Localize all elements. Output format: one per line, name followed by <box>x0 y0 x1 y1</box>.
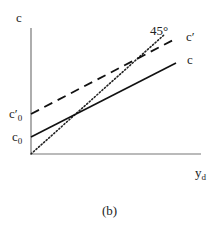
c-prime-zero-intercept-label: c′0 <box>9 107 22 120</box>
c-zero-intercept-label: c0 <box>12 130 22 143</box>
forty-five-degree-line <box>31 34 165 154</box>
figure-caption: (b) <box>102 204 117 217</box>
c-line <box>31 63 176 137</box>
c-prime-line <box>31 38 177 114</box>
c-prime-line-label: c′ <box>186 30 195 43</box>
x-axis-label-main: y <box>195 165 202 180</box>
c-zero-main: c <box>12 129 18 144</box>
y-axis-label: c <box>16 11 22 24</box>
c-line-label: c <box>187 53 193 66</box>
c-prime-zero-sub: 0 <box>18 113 23 123</box>
forty-five-degree-label: 45° <box>150 24 168 37</box>
x-axis-label-sub: d <box>202 172 207 182</box>
c-zero-sub: 0 <box>18 136 23 146</box>
x-axis-label: yd <box>195 166 206 179</box>
c-prime-zero-main: c′ <box>9 106 18 121</box>
